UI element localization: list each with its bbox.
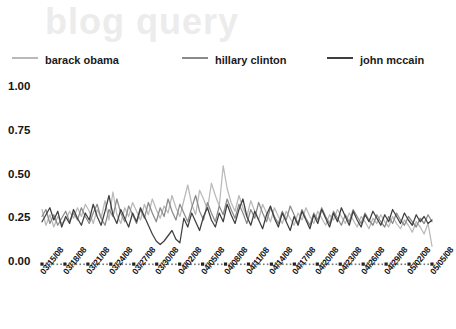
series-line-barack-obama: [42, 166, 432, 247]
